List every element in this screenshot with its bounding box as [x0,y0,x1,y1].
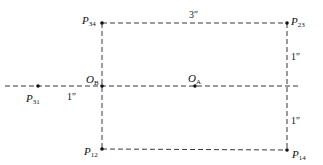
diagram-canvas: P34 P23 OB OA P31 P12 P14 3″ 1″ 1″ 1″ [0,0,323,165]
point-P31 [36,84,40,88]
label-OA: OA [188,73,201,86]
label-P14: P14 [292,149,306,162]
label-P23: P23 [291,16,305,29]
label-P12: P12 [84,146,98,159]
point-P12 [100,147,104,151]
dimension-left-offset: 1″ [67,92,76,102]
point-P23 [285,21,289,25]
bottom-edge-line [102,149,287,150]
point-OB [100,84,104,88]
label-P31: P31 [26,93,40,106]
dimension-right-lower: 1″ [291,116,300,126]
dimension-top-width: 3″ [189,10,198,20]
label-OB: OB [86,74,99,87]
point-P34 [100,21,104,25]
label-P34: P34 [82,15,96,28]
dimension-right-upper: 1″ [291,52,300,62]
point-P14 [285,148,289,152]
diagram-lines [0,0,323,165]
